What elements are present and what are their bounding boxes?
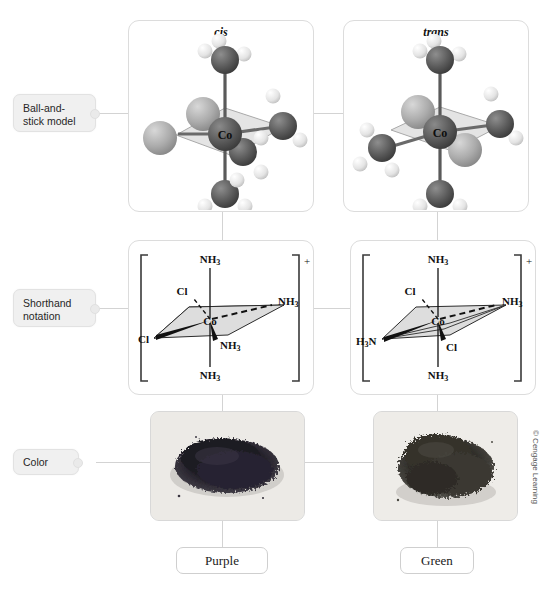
figure-root: Ball-and-stick model Shorthand notation …: [0, 0, 556, 590]
sample-image-cis: [151, 412, 304, 520]
connector-mid-row2: [313, 308, 350, 309]
connector-mid-row3: [305, 462, 373, 463]
shorthand-notation-trans: + NH3 Cl NH3 H3N Cl NH3 Co: [354, 243, 534, 393]
row-label-ball-and-stick-text: Ball-and-stick model: [23, 102, 76, 127]
row-label-color: Color: [13, 449, 79, 475]
ball-and-stick-model-trans: Co: [348, 34, 524, 210]
color-name-trans: Green: [400, 547, 474, 574]
ligand-right-cis: NH3: [278, 295, 299, 309]
row-label-shorthand: Shorthand notation: [13, 289, 96, 327]
sample-photo-cis: [150, 411, 305, 521]
ligand-right-trans: NH3: [502, 295, 523, 309]
ligand-bottom-cis: NH3: [200, 369, 221, 383]
sample-photo-trans: [373, 411, 518, 521]
charge-label-cis: +: [304, 255, 310, 267]
connector-vert-right-c: [437, 521, 438, 547]
row-label-color-text: Color: [23, 456, 48, 468]
sample-image-trans: [374, 412, 517, 520]
ligand-left-cis: Cl: [138, 333, 149, 345]
shorthand-center-trans: Co: [431, 315, 445, 327]
connector-vert-right-a: [437, 212, 438, 240]
ligand-lower-center-trans: Cl: [446, 341, 457, 353]
color-name-cis-text: Purple: [205, 553, 239, 569]
connector-vert-left-c: [222, 521, 223, 547]
color-name-trans-text: Green: [421, 553, 453, 569]
connector-vert-left-a: [222, 212, 223, 240]
row-label-shorthand-text: Shorthand notation: [23, 297, 71, 322]
ligand-upper-left-trans: Cl: [405, 285, 416, 297]
connector-nub-icon: [90, 304, 100, 314]
ball-and-stick-model-cis: Co: [133, 34, 309, 210]
ligand-bottom-trans: NH3: [428, 369, 449, 383]
charge-label-trans: +: [526, 255, 532, 267]
row-label-ball-and-stick: Ball-and-stick model: [13, 94, 96, 132]
ligand-top-trans: NH3: [428, 253, 449, 267]
copyright-notice: © Cengage Learning: [531, 430, 540, 504]
ligand-top-cis: NH3: [200, 253, 221, 267]
ligand-left-trans: H3N: [356, 335, 377, 349]
connector-nub-icon: [90, 109, 100, 119]
shorthand-notation-cis: + NH3 Cl NH3 Cl NH3 NH3 Co: [132, 243, 312, 393]
model-center-label-cis: Co: [218, 128, 233, 142]
color-name-cis: Purple: [176, 547, 268, 574]
connector-nub-icon: [73, 458, 83, 468]
ligand-lower-center-cis: NH3: [220, 339, 241, 353]
shorthand-center-cis: Co: [203, 315, 217, 327]
model-center-label-trans: Co: [433, 126, 448, 140]
ligand-upper-left-cis: Cl: [177, 285, 188, 297]
